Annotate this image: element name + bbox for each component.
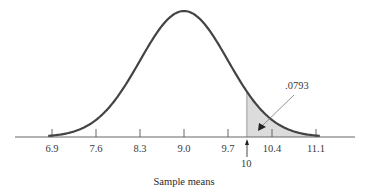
marker-label: 10 [241,158,252,169]
x-tick-label: 11.1 [307,143,325,154]
x-axis-label: Sample means [154,176,215,187]
x-tick-label: 7.6 [89,143,102,154]
x-tick-label: 9.7 [221,143,234,154]
x-tick-label: 9.0 [177,143,190,154]
x-tick-label: 8.3 [133,143,146,154]
normal-curve-chart [0,0,368,193]
shaded-tail-area [247,92,316,137]
area-annotation: .0793 [285,80,309,91]
annotation-leader-line [262,95,294,126]
x-tick-label: 6.9 [45,143,58,154]
normal-curve [48,11,320,136]
marker-arrow-up-icon [245,139,249,145]
x-tick-label: 10.4 [263,143,281,154]
